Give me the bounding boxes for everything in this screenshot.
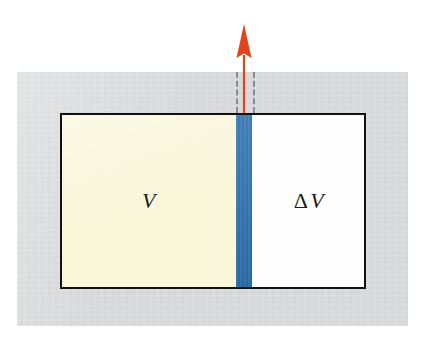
- dashed-guide-line-left: [236, 72, 238, 113]
- label-v-symbol: V: [142, 188, 156, 213]
- added-volume-region: ΔV: [252, 115, 364, 287]
- label-dv-delta: Δ: [294, 188, 309, 213]
- arrow-head: [237, 24, 252, 58]
- label-dv-symbol: V: [310, 188, 324, 213]
- dashed-guide-line-right: [253, 72, 255, 113]
- label-v: V: [142, 190, 156, 212]
- swept-layer-slab: [236, 115, 252, 287]
- diagram-canvas: V ΔV: [0, 0, 428, 346]
- initial-volume-region: V: [62, 115, 236, 287]
- container-box: V ΔV: [60, 113, 366, 289]
- label-delta-v: ΔV: [292, 190, 325, 212]
